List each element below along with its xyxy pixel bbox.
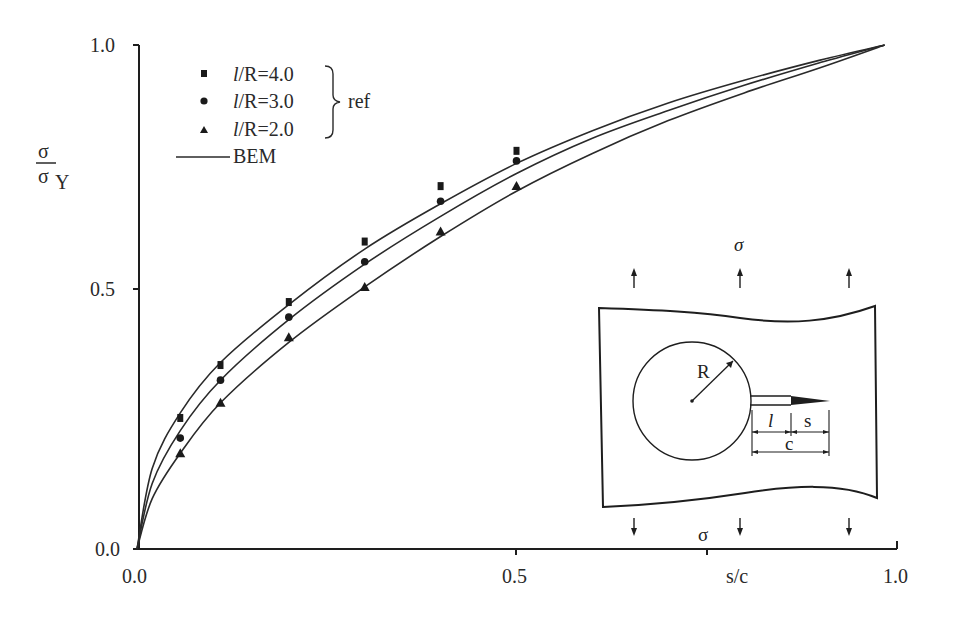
marker-square xyxy=(362,238,368,246)
plate-outline xyxy=(599,306,877,507)
marker-triangle xyxy=(512,181,522,190)
marker-triangle xyxy=(360,282,370,291)
legend-brace xyxy=(325,66,340,138)
svg-text:σ: σ xyxy=(38,165,49,187)
marker-square xyxy=(286,298,292,306)
chart-figure: 1.0 0.5 0.0 0.0 0.5 1.0 s/c σ σ Y l/R=4.… xyxy=(0,0,954,630)
marker-circle xyxy=(361,258,369,266)
marker-square xyxy=(514,147,520,155)
legend-marker-circle xyxy=(200,97,207,104)
marker-square xyxy=(438,182,444,190)
svg-text:Y: Y xyxy=(55,171,69,193)
legend-label-3: l/R=3.0 xyxy=(233,90,294,112)
inset-label-stress-bottom: σ xyxy=(698,524,708,545)
inset-label-l: l xyxy=(768,410,773,431)
marker-square xyxy=(217,361,223,369)
marker-circle xyxy=(437,197,445,205)
marker-circle xyxy=(285,313,293,321)
y-axis-title: σ σ Y xyxy=(36,140,69,193)
y-tick-label-0.5: 0.5 xyxy=(90,278,115,300)
marker-circle xyxy=(217,376,225,384)
legend-marker-triangle xyxy=(200,126,208,133)
x-tick-label-0.5: 0.5 xyxy=(502,565,527,587)
legend-marker-square xyxy=(201,70,207,77)
svg-text:σ: σ xyxy=(38,140,49,162)
stress-arrows-bottom xyxy=(631,518,852,536)
reference-markers xyxy=(175,147,521,457)
inset-label-radius: R xyxy=(697,361,710,382)
inset-label-c: c xyxy=(785,433,793,454)
legend-label-4: l/R=4.0 xyxy=(233,63,294,85)
y-tick-label-1.0: 1.0 xyxy=(90,34,115,56)
x-tick-label-1.0: 1.0 xyxy=(883,565,908,587)
marker-triangle xyxy=(436,226,446,235)
inset-label-s: s xyxy=(804,410,811,431)
marker-triangle xyxy=(284,332,294,341)
x-tick-label-0.0: 0.0 xyxy=(122,565,147,587)
legend: l/R=4.0 l/R=3.0 l/R=2.0 BEM ref xyxy=(176,63,371,167)
inset-diagram xyxy=(599,268,877,536)
y-tick-label-0.0: 0.0 xyxy=(95,538,120,560)
x-axis-title: s/c xyxy=(726,565,748,587)
crack-slot xyxy=(750,396,791,405)
legend-ref-label: ref xyxy=(348,90,371,112)
inset-label-stress-top: σ xyxy=(734,234,744,255)
legend-label-bem: BEM xyxy=(233,145,277,167)
marker-square xyxy=(177,414,183,422)
marker-circle xyxy=(176,434,184,442)
marker-circle xyxy=(513,157,521,165)
stress-arrows-top xyxy=(631,268,852,288)
crack-tip xyxy=(791,396,830,405)
legend-label-2: l/R=2.0 xyxy=(233,118,294,140)
